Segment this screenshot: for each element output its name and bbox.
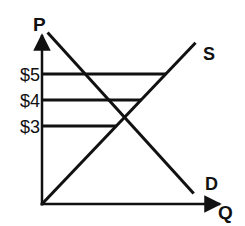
x-axis-label: Q bbox=[218, 202, 233, 223]
price-tick-label: $3 bbox=[20, 117, 40, 137]
supply-curve-label: S bbox=[203, 44, 215, 64]
demand-curve-label: D bbox=[205, 174, 218, 194]
demand-curve bbox=[48, 32, 194, 193]
y-axis-label: P bbox=[33, 14, 46, 35]
price-tick-label: $5 bbox=[20, 65, 40, 85]
supply-demand-diagram: P Q S D $5$4$3 bbox=[0, 0, 245, 226]
supply-curve bbox=[42, 43, 196, 204]
price-tick-label: $4 bbox=[20, 91, 40, 111]
